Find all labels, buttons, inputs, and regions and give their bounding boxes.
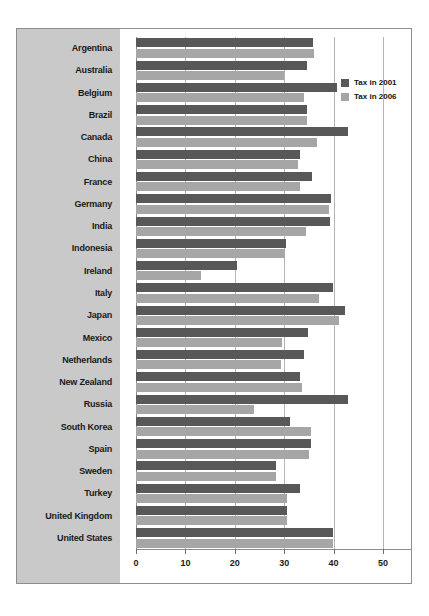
category-label-italy: Italy: [95, 288, 112, 298]
x-axis-line: [136, 549, 411, 550]
bar-netherlands-2001: [136, 350, 304, 359]
category-label-france: France: [84, 177, 112, 187]
category-label-germany: Germany: [74, 199, 112, 209]
category-label-sweden: Sweden: [79, 466, 112, 476]
bar-indonesia-2006: [136, 249, 285, 258]
category-label-new-zealand: New Zealand: [59, 377, 112, 387]
bar-south-korea-2001: [136, 417, 290, 426]
gridline-40: [334, 37, 335, 549]
legend-item-2006: Tax in 2006: [341, 92, 397, 101]
gridline-50: [383, 37, 384, 549]
legend-swatch-2001-icon: [341, 79, 349, 87]
tick-10: [185, 549, 186, 554]
category-label-turkey: Turkey: [84, 488, 112, 498]
legend: Tax in 2001 Tax in 2006: [341, 78, 397, 106]
tick-label-10: 10: [180, 558, 190, 568]
bar-new-zealand-2001: [136, 372, 300, 381]
category-label-united-states: United States: [57, 533, 112, 543]
tick-0: [136, 549, 137, 554]
tick-label-30: 30: [279, 558, 289, 568]
bar-mexico-2001: [136, 328, 308, 337]
category-label-south-korea: South Korea: [61, 422, 112, 432]
tick-label-0: 0: [133, 558, 138, 568]
bar-japan-2001: [136, 306, 345, 315]
bar-australia-2001: [136, 61, 307, 70]
legend-item-2001: Tax in 2001: [341, 78, 397, 87]
bar-spain-2001: [136, 439, 311, 448]
bar-france-2001: [136, 172, 312, 181]
chart-frame: ArgentinaAustraliaBelgiumBrazilCanadaChi…: [16, 28, 412, 584]
tick-50: [383, 549, 384, 554]
category-label-japan: Japan: [87, 310, 112, 320]
tick-20: [235, 549, 236, 554]
category-label-mexico: Mexico: [83, 333, 112, 343]
bar-united-kingdom-2006: [136, 516, 287, 525]
category-label-belgium: Belgium: [78, 88, 112, 98]
category-label-australia: Australia: [75, 65, 112, 75]
tick-label-50: 50: [378, 558, 388, 568]
scan-artifact-top: [150, 2, 400, 10]
bar-turkey-2001: [136, 484, 300, 493]
bar-canada-2006: [136, 138, 317, 147]
bar-united-states-2006: [136, 539, 333, 548]
plot-area: 01020304050 Tax in 2001 Tax in 2006: [120, 29, 411, 583]
bar-argentina-2006: [136, 49, 314, 58]
category-label-united-kingdom: United Kingdom: [45, 511, 112, 521]
category-label-argentina: Argentina: [72, 43, 112, 53]
bar-belgium-2001: [136, 83, 337, 92]
bar-russia-2001: [136, 395, 348, 404]
bar-south-korea-2006: [136, 427, 311, 436]
bar-netherlands-2006: [136, 360, 281, 369]
bar-mexico-2006: [136, 338, 282, 347]
tick-40: [334, 549, 335, 554]
bar-india-2001: [136, 217, 330, 226]
bar-belgium-2006: [136, 93, 304, 102]
tick-label-20: 20: [230, 558, 240, 568]
category-label-indonesia: Indonesia: [72, 243, 112, 253]
bar-germany-2001: [136, 194, 331, 203]
category-label-russia: Russia: [84, 399, 112, 409]
bar-brazil-2006: [136, 116, 307, 125]
bar-canada-2001: [136, 127, 348, 136]
legend-label-2001: Tax in 2001: [354, 78, 397, 87]
bar-brazil-2001: [136, 105, 307, 114]
bar-sweden-2001: [136, 461, 276, 470]
tick-label-40: 40: [329, 558, 339, 568]
bar-italy-2006: [136, 294, 319, 303]
bar-indonesia-2001: [136, 239, 286, 248]
bar-ireland-2006: [136, 271, 201, 280]
bar-australia-2006: [136, 71, 284, 80]
bar-united-kingdom-2001: [136, 506, 287, 515]
category-label-netherlands: Netherlands: [62, 355, 112, 365]
category-label-india: India: [92, 221, 112, 231]
bar-china-2006: [136, 160, 298, 169]
category-label-panel: ArgentinaAustraliaBelgiumBrazilCanadaChi…: [17, 29, 120, 583]
bar-india-2006: [136, 227, 306, 236]
legend-swatch-2006-icon: [341, 93, 349, 101]
bar-china-2001: [136, 150, 300, 159]
bar-new-zealand-2006: [136, 383, 302, 392]
bar-argentina-2001: [136, 38, 313, 47]
bar-spain-2006: [136, 450, 309, 459]
bar-turkey-2006: [136, 494, 287, 503]
bar-italy-2001: [136, 283, 333, 292]
category-label-brazil: Brazil: [89, 110, 112, 120]
bar-sweden-2006: [136, 472, 276, 481]
category-label-china: China: [88, 154, 112, 164]
tick-30: [284, 549, 285, 554]
bar-russia-2006: [136, 405, 254, 414]
bar-japan-2006: [136, 316, 339, 325]
bar-france-2006: [136, 182, 300, 191]
category-label-ireland: Ireland: [84, 266, 112, 276]
legend-label-2006: Tax in 2006: [354, 92, 397, 101]
category-label-canada: Canada: [81, 132, 112, 142]
bar-united-states-2001: [136, 528, 333, 537]
bar-ireland-2001: [136, 261, 237, 270]
bar-germany-2006: [136, 205, 329, 214]
category-label-spain: Spain: [88, 444, 112, 454]
